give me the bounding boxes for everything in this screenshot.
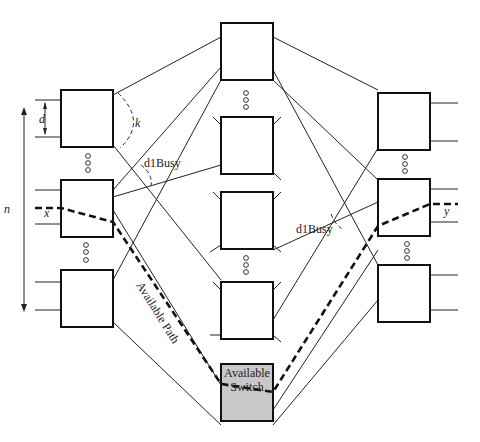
label-available-switch-2: Switch xyxy=(230,380,263,394)
middle-switch-3 xyxy=(221,192,273,249)
label-d1busy-left: d1Busy xyxy=(144,156,181,170)
label-x: x xyxy=(43,206,50,220)
label-y: y xyxy=(443,204,450,218)
middle-switch-2 xyxy=(221,117,273,174)
label-available-switch-1: Available xyxy=(224,366,270,380)
output-switch-2 xyxy=(378,179,430,236)
input-switch-3 xyxy=(61,270,113,327)
label-d1busy-right: d1Busy xyxy=(296,222,333,236)
middle-stage xyxy=(221,23,273,421)
input-switch-2 xyxy=(61,180,113,237)
output-switch-3 xyxy=(378,265,430,322)
output-switch-1 xyxy=(378,93,430,150)
label-d: d xyxy=(39,112,46,126)
middle-switch-1 xyxy=(221,23,273,80)
clos-network-diagram: d k n x y d1Busy d1Busy Available Path A… xyxy=(0,0,480,442)
label-n: n xyxy=(4,202,10,216)
label-k: k xyxy=(135,116,141,130)
input-switch-1 xyxy=(61,90,113,147)
middle-switch-4 xyxy=(221,282,273,339)
